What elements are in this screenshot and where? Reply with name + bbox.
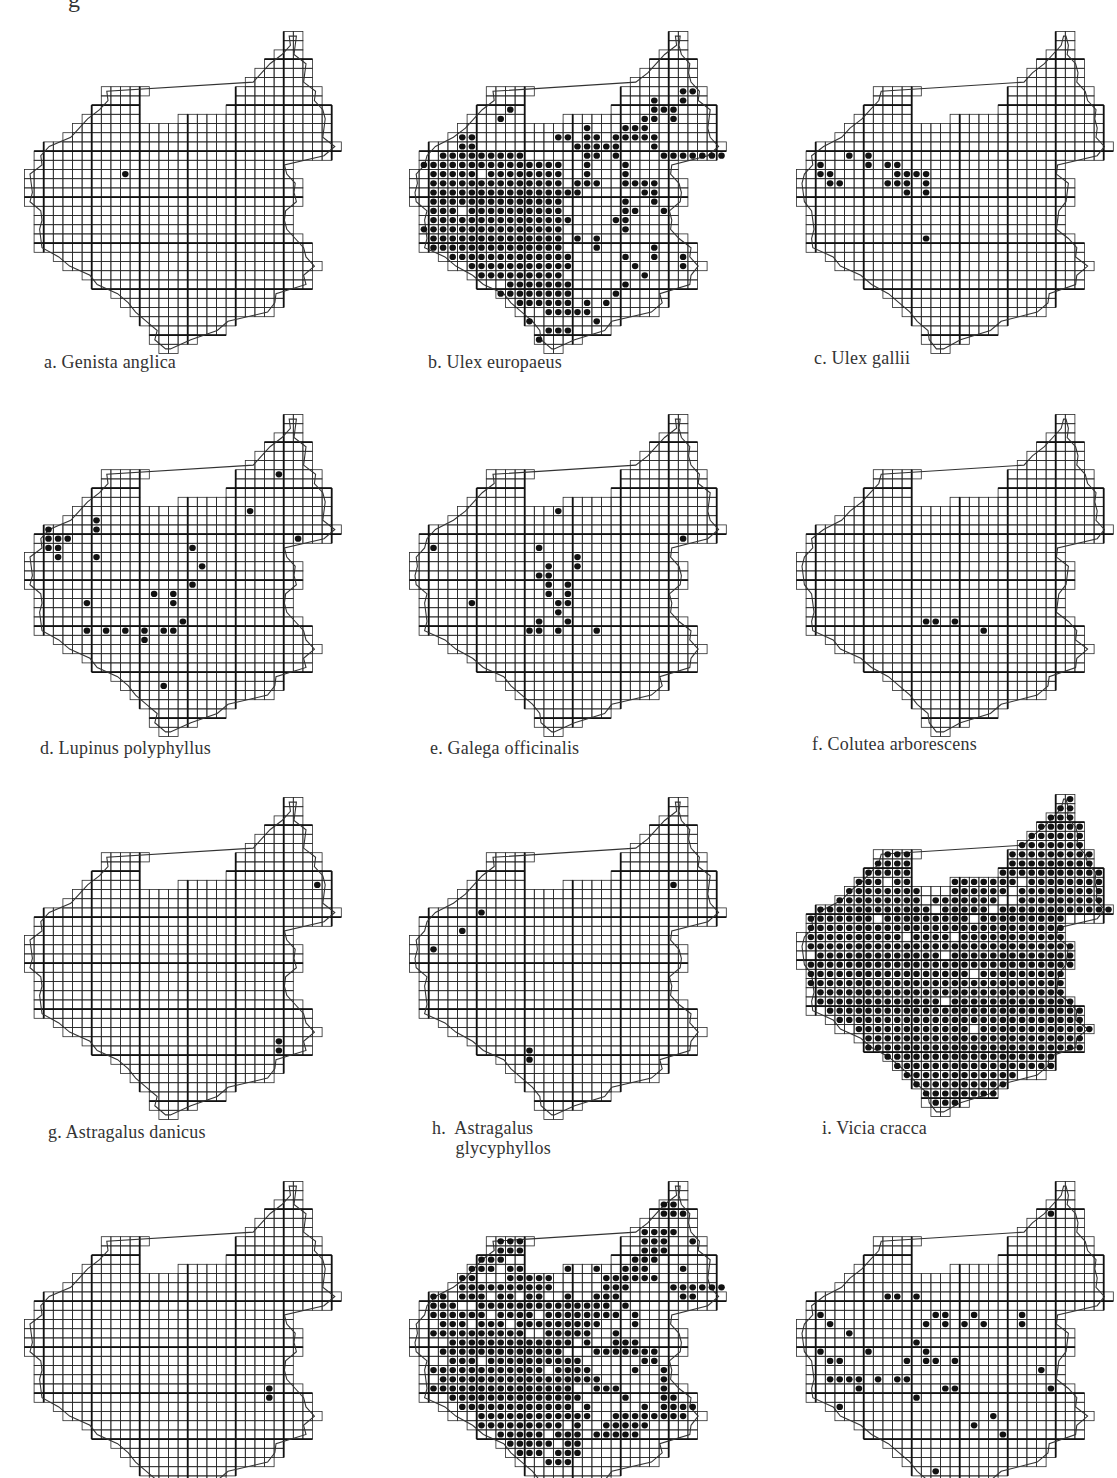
record-dot — [836, 998, 843, 1004]
record-dot — [932, 971, 939, 977]
record-dot — [536, 1367, 543, 1373]
record-dot — [593, 1349, 600, 1355]
record-dot — [1067, 943, 1074, 949]
record-dot — [1048, 897, 1055, 903]
county-boundary-outline — [30, 1186, 335, 1478]
record-dot — [469, 1376, 476, 1382]
record-dot — [651, 143, 658, 149]
record-dot — [1028, 888, 1035, 894]
record-dot — [971, 1422, 978, 1428]
record-dot — [488, 1339, 495, 1345]
record-dot — [1000, 906, 1007, 912]
record-dot — [449, 1303, 456, 1309]
record-dot — [488, 1367, 495, 1373]
record-dot — [632, 134, 639, 140]
record-dot — [440, 1303, 447, 1309]
record-dot — [894, 1063, 901, 1069]
record-dot — [555, 1404, 562, 1410]
record-dot — [469, 1367, 476, 1373]
record-dot — [555, 1339, 562, 1345]
record-dot — [449, 1385, 456, 1391]
record-dot — [526, 1349, 533, 1355]
record-dot — [478, 1257, 485, 1263]
record-dot — [526, 1376, 533, 1382]
record-dot — [990, 1063, 997, 1069]
record-dot — [913, 1063, 920, 1069]
record-dot — [971, 1090, 978, 1096]
record-dot — [497, 189, 504, 195]
record-dot — [875, 1026, 882, 1032]
record-dot — [488, 171, 495, 177]
record-dot — [459, 1312, 466, 1318]
record-dot — [1048, 989, 1055, 995]
record-dot — [565, 1321, 572, 1327]
record-dot — [846, 952, 853, 958]
heavy-grid-lines — [25, 1182, 342, 1478]
record-dot — [932, 1008, 939, 1014]
record-dot — [980, 1008, 987, 1014]
record-dot — [680, 153, 687, 159]
record-dot — [952, 962, 959, 968]
record-dot — [836, 971, 843, 977]
record-dot — [827, 989, 834, 995]
record-dot — [488, 1330, 495, 1336]
record-dot — [555, 508, 562, 514]
record-dot — [1028, 1026, 1035, 1032]
record-dot — [497, 245, 504, 251]
record-dot — [817, 1349, 824, 1355]
record-dot — [884, 934, 891, 940]
record-dot — [526, 1321, 533, 1327]
record-dot — [449, 199, 456, 205]
record-dot — [961, 1063, 968, 1069]
record-dot — [904, 943, 911, 949]
record-dot — [574, 554, 581, 560]
record-dot — [1000, 962, 1007, 968]
record-dot — [932, 1081, 939, 1087]
record-dot — [497, 1293, 504, 1299]
record-dot — [469, 134, 476, 140]
record-dot — [536, 180, 543, 186]
record-dot — [1028, 980, 1035, 986]
record-dot — [932, 1017, 939, 1023]
record-dot — [469, 1284, 476, 1290]
record-dot — [651, 254, 658, 260]
record-dot — [932, 1358, 939, 1364]
record-dot — [1057, 980, 1064, 986]
record-dot — [884, 1293, 891, 1299]
record-dot — [1028, 1054, 1035, 1060]
record-dot — [942, 934, 949, 940]
map-caption-d: d. Lupinus polyphyllus — [40, 738, 211, 758]
record-dot — [613, 1293, 620, 1299]
record-dot — [478, 1422, 485, 1428]
record-dot — [1105, 906, 1112, 912]
record-dot — [488, 153, 495, 159]
record-dot — [827, 1376, 834, 1382]
record-dot — [827, 962, 834, 968]
record-dot — [517, 1247, 524, 1253]
record-dot — [488, 263, 495, 269]
record-dot — [980, 971, 987, 977]
record-dot — [651, 1238, 658, 1244]
record-dot — [894, 1293, 901, 1299]
record-dot — [1067, 814, 1074, 820]
distribution-map-k — [409, 1181, 739, 1478]
record-dot — [1048, 934, 1055, 940]
record-dot — [507, 1376, 514, 1382]
record-dot — [545, 281, 552, 287]
record-dot — [613, 1330, 620, 1336]
record-dot — [894, 952, 901, 958]
record-dot — [545, 226, 552, 232]
record-dot — [449, 171, 456, 177]
record-dot — [865, 870, 872, 876]
record-dot — [545, 591, 552, 597]
record-dot — [913, 906, 920, 912]
record-dot — [865, 980, 872, 986]
record-dot — [574, 1395, 581, 1401]
record-dot — [913, 934, 920, 940]
record-dot — [507, 254, 514, 260]
record-dot — [856, 897, 863, 903]
record-dot — [45, 545, 52, 551]
map-caption-e: e. Galega officinalis — [430, 738, 579, 758]
record-dot — [266, 1385, 273, 1391]
record-dot — [170, 591, 177, 597]
